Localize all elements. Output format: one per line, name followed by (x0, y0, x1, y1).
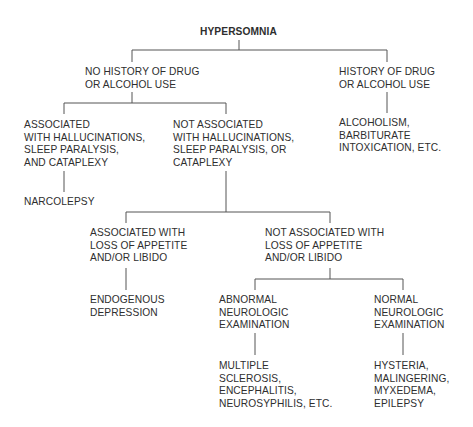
node-multiple-sclerosis: MULTIPLE SCLEROSIS, ENCEPHALITIS, NEUROS… (219, 360, 332, 411)
node-label: AND CATAPLEXY (24, 157, 145, 170)
node-label: MALINGERING, (374, 373, 449, 386)
node-label: ENCEPHALITIS, (219, 385, 332, 398)
node-label: NORMAL (374, 294, 445, 307)
node-associated-appetite: ASSOCIATED WITH LOSS OF APPETITE AND/OR … (90, 227, 187, 265)
node-endogenous-depression: ENDOGENOUS DEPRESSION (90, 294, 165, 319)
node-label: DEPRESSION (90, 307, 165, 320)
node-label: HISTORY OF DRUG (339, 66, 435, 79)
node-label: NARCOLEPSY (24, 196, 95, 209)
node-alcoholism: ALCOHOLISM, BARBITURATE INTOXICATION, ET… (339, 117, 441, 155)
node-label: NEUROLOGIC (374, 307, 445, 320)
node-label: OR ALCOHOL USE (339, 79, 435, 92)
node-label: LOSS OF APPETITE (90, 240, 187, 253)
node-label: SLEEP PARALYSIS, OR (173, 144, 294, 157)
node-label: NEUROSYPHILIS, ETC. (219, 398, 332, 411)
node-hysteria: HYSTERIA, MALINGERING, MYXEDEMA, EPILEPS… (374, 360, 449, 411)
node-label: LOSS OF APPETITE (265, 240, 384, 253)
node-label: NOT ASSOCIATED WITH (265, 227, 384, 240)
node-label: OR ALCOHOL USE (85, 79, 199, 92)
node-label: AND/OR LIBIDO (265, 252, 384, 265)
node-narcolepsy: NARCOLEPSY (24, 196, 95, 209)
node-label: ASSOCIATED WITH (90, 227, 187, 240)
node-label: HYPERSOMNIA (200, 26, 277, 39)
node-hypersomnia: HYPERSOMNIA (200, 26, 277, 39)
node-label: EXAMINATION (219, 319, 290, 332)
node-label: ALCOHOLISM, (339, 117, 441, 130)
node-label: AND/OR LIBIDO (90, 252, 187, 265)
node-label: ABNORMAL (219, 294, 290, 307)
node-label: SLEEP PARALYSIS, (24, 144, 145, 157)
node-not-associated-appetite: NOT ASSOCIATED WITH LOSS OF APPETITE AND… (265, 227, 384, 265)
node-label: CATAPLEXY (173, 157, 294, 170)
node-label: SCLEROSIS, (219, 373, 332, 386)
node-label: MYXEDEMA, (374, 385, 449, 398)
node-label: WITH HALLUCINATIONS, (173, 132, 294, 145)
node-normal-neurologic: NORMAL NEUROLOGIC EXAMINATION (374, 294, 445, 332)
node-label: NEUROLOGIC (219, 307, 290, 320)
node-label: INTOXICATION, ETC. (339, 142, 441, 155)
node-not-associated-hallucinations: NOT ASSOCIATED WITH HALLUCINATIONS, SLEE… (173, 119, 294, 170)
node-label: HYSTERIA, (374, 360, 449, 373)
node-label: BARBITURATE (339, 130, 441, 143)
node-label: ENDOGENOUS (90, 294, 165, 307)
node-no-history: NO HISTORY OF DRUG OR ALCOHOL USE (85, 66, 199, 91)
node-label: ASSOCIATED (24, 119, 145, 132)
node-label: NO HISTORY OF DRUG (85, 66, 199, 79)
node-history: HISTORY OF DRUG OR ALCOHOL USE (339, 66, 435, 91)
node-label: EXAMINATION (374, 319, 445, 332)
node-label: EPILEPSY (374, 398, 449, 411)
node-label: MULTIPLE (219, 360, 332, 373)
node-label: WITH HALLUCINATIONS, (24, 132, 145, 145)
node-abnormal-neurologic: ABNORMAL NEUROLOGIC EXAMINATION (219, 294, 290, 332)
node-associated-hallucinations: ASSOCIATED WITH HALLUCINATIONS, SLEEP PA… (24, 119, 145, 170)
node-label: NOT ASSOCIATED (173, 119, 294, 132)
